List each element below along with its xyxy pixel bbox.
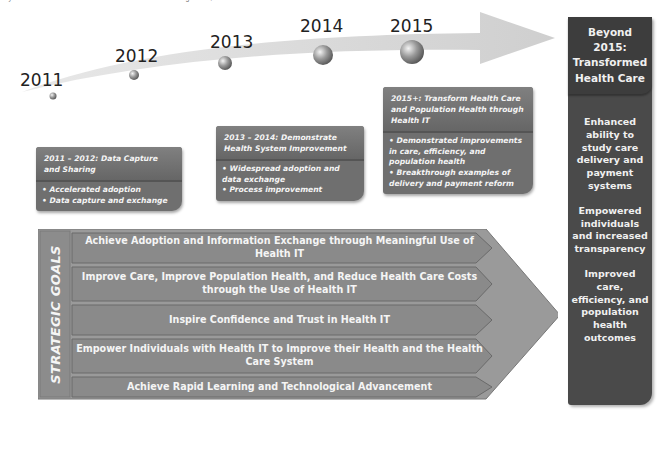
strategic-goals-label: STRATEGIC GOALS: [40, 229, 70, 399]
beyond-title: Beyond 2015: Transformed Health Care: [568, 17, 652, 94]
phase-title: 2013 – 2014: Demonstrate Health System I…: [216, 126, 364, 161]
year-label-2012: 2012: [115, 46, 158, 66]
phase-title: 2015+: Transform Health Care and Populat…: [383, 87, 533, 133]
goal-bar-5: Achieve Rapid Learning and Technological…: [72, 377, 487, 397]
year-label-2015: 2015: [390, 16, 433, 36]
outcome-item: Enhanced ability to study care delivery …: [568, 116, 652, 193]
phase-box-2013-2014: 2013 – 2014: Demonstrate Health System I…: [216, 126, 364, 201]
strategic-goals-panel: STRATEGIC GOALS Achieve Adoption and Inf…: [38, 229, 558, 399]
phase-bullet: Data capture and exchange: [42, 196, 176, 207]
milestone-dot-2014: [313, 45, 333, 65]
goal-bar-4: Empower Individuals with Health IT to Im…: [72, 339, 487, 373]
phase-bullet: Demonstrated improvements in care, effic…: [389, 136, 527, 168]
goal-bar-3: Inspire Confidence and Trust in Health I…: [72, 305, 487, 335]
year-label-2013: 2013: [210, 32, 253, 52]
beyond-2015-panel: Beyond 2015: Transformed Health Care Enh…: [568, 17, 652, 405]
milestone-dot-2011: [50, 93, 57, 100]
goal-bar-1: Achieve Adoption and Information Exchang…: [72, 233, 487, 263]
milestone-dot-2013: [218, 56, 232, 70]
year-label-2011: 2011: [20, 70, 63, 90]
phase-bullet: Process improvement: [222, 185, 358, 196]
phase-bullet: Accelerated adoption: [42, 185, 176, 196]
milestone-dot-2012: [129, 70, 139, 80]
phase-box-2015-plus: 2015+: Transform Health Care and Populat…: [383, 87, 533, 194]
outcome-item: Empowered individuals and increased tran…: [568, 205, 652, 256]
phase-box-2011-2012: 2011 – 2012: Data Capture and Sharing Ac…: [36, 147, 182, 211]
phase-title: 2011 – 2012: Data Capture and Sharing: [36, 147, 182, 182]
phase-bullet: Breakthrough examples of delivery and pa…: [389, 168, 527, 189]
milestone-dot-2015: [400, 40, 424, 64]
outcome-item: Improved care, efficiency, and populatio…: [568, 268, 652, 345]
phase-bullet: Widespread adoption and data exchange: [222, 164, 358, 185]
year-label-2014: 2014: [300, 16, 343, 36]
goal-bar-2: Improve Care, Improve Population Health,…: [72, 267, 487, 301]
